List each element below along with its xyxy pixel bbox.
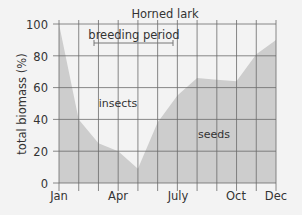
x-tick-apr: Apr (108, 189, 128, 203)
insects-label: insects (99, 97, 138, 110)
chart-container: Horned lark breeding period insects seed… (0, 0, 302, 215)
area-chart: Horned lark breeding period insects seed… (0, 0, 302, 215)
y-tick-20: 20 (33, 145, 48, 159)
y-tick-100: 100 (26, 18, 48, 32)
chart-title: Horned lark (131, 7, 198, 21)
seeds-label: seeds (198, 128, 230, 141)
y-tick-60: 60 (33, 81, 48, 95)
y-tick-40: 40 (33, 113, 48, 127)
x-tick-jan: Jan (49, 189, 68, 203)
x-tick-july: July (167, 189, 189, 203)
y-tick-80: 80 (33, 50, 48, 64)
breeding-period-label: breeding period (88, 28, 179, 42)
y-tick-0: 0 (41, 177, 48, 191)
y-axis-label: total biomass (%) (15, 53, 29, 154)
seeds-area (59, 24, 276, 183)
x-tick-dec: Dec (265, 189, 287, 203)
x-tick-oct: Oct (226, 189, 246, 203)
